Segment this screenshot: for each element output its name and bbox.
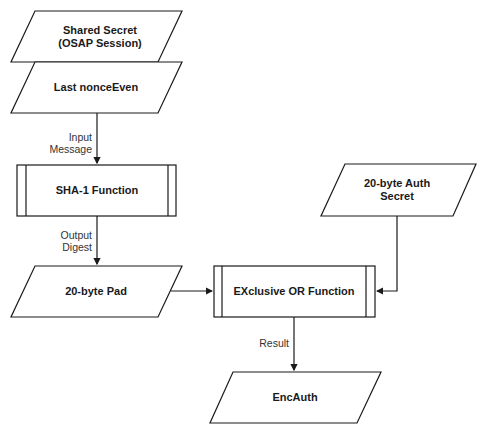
output-digest-line1: Output: [40, 229, 92, 241]
auth-secret-line2: Secret: [380, 190, 414, 203]
shared-secret-line2: (OSAP Session): [58, 37, 142, 50]
shared-secret-label: Shared Secret (OSAP Session): [30, 11, 170, 62]
last-nonce-label: Last nonceEven: [26, 62, 166, 113]
auth-secret-label: 20-byte Auth Secret: [330, 164, 464, 216]
input-message-line1: Input: [40, 131, 92, 143]
xor-label: EXclusive OR Function: [222, 266, 366, 317]
output-digest-line2: Digest: [40, 241, 92, 253]
shared-secret-line1: Shared Secret: [63, 24, 137, 37]
arrow-auth-to-xor: [377, 216, 397, 291]
input-message-label: Input Message: [40, 131, 92, 155]
encauth-label: EncAuth: [222, 372, 368, 423]
result-label: Result: [238, 337, 289, 349]
auth-secret-line1: 20-byte Auth: [364, 177, 430, 190]
output-digest-label: Output Digest: [40, 229, 92, 253]
sha1-label: SHA-1 Function: [26, 165, 168, 216]
pad-label: 20-byte Pad: [26, 266, 166, 317]
input-message-line2: Message: [40, 143, 92, 155]
